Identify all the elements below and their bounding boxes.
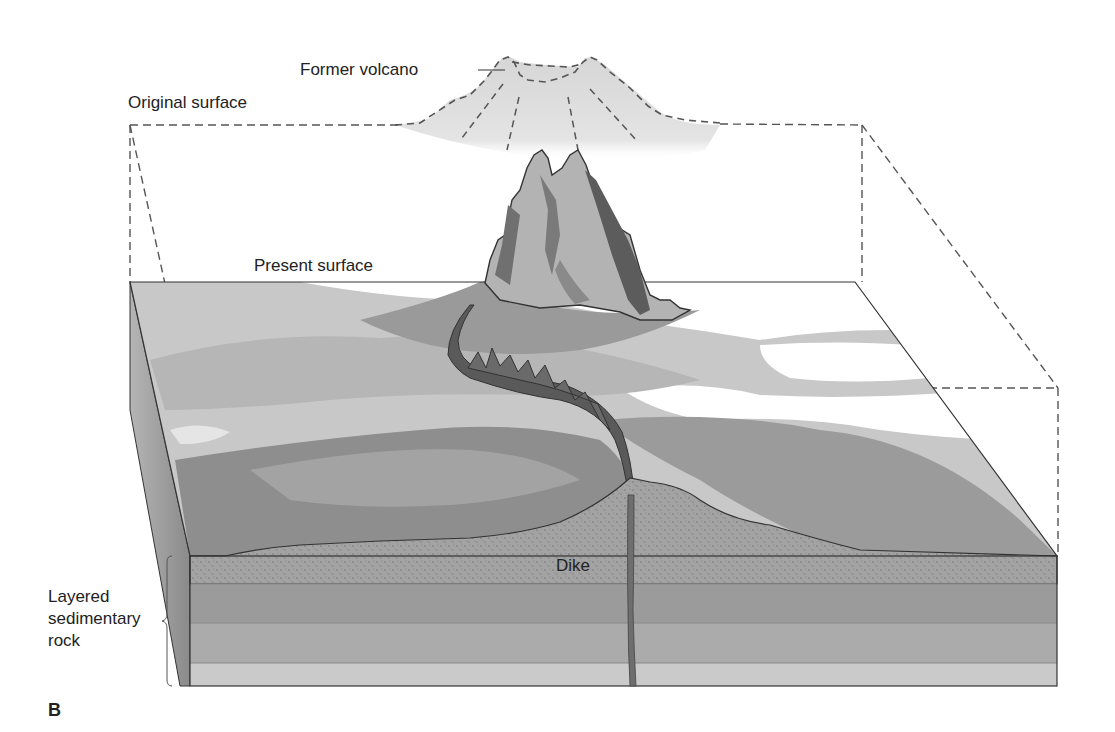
label-present-surface: Present surface (254, 256, 373, 276)
label-layered-rock-line3: rock (48, 631, 80, 651)
label-layered-rock-line2: sedimentary (48, 609, 141, 629)
panel-letter: B (48, 700, 61, 721)
label-layered-rock-line1: Layered (48, 587, 109, 607)
block-diagram-figure: Former volcano Original surface Present … (0, 0, 1115, 732)
former-volcano-outline (395, 57, 720, 161)
label-original-surface: Original surface (128, 93, 247, 113)
label-dike: Dike (556, 556, 590, 576)
label-former-volcano: Former volcano (300, 60, 418, 80)
